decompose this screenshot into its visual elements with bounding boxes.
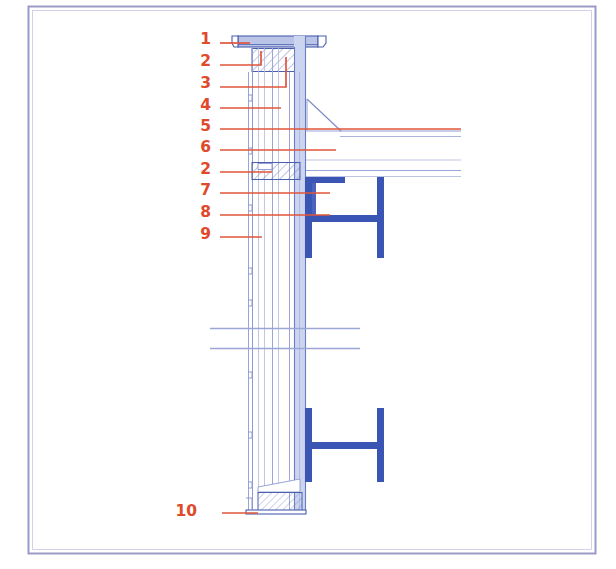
callout-number: 9 [200, 225, 211, 243]
beam-right-flange [377, 408, 384, 482]
callout-number: 2 [200, 160, 211, 178]
floor-slab-hatched [252, 163, 300, 180]
beam-stiffener [312, 183, 316, 215]
callout-number: 7 [200, 181, 211, 199]
callout-number: 10 [175, 502, 197, 520]
coping-drip-left [232, 36, 238, 47]
callout-number: 2 [200, 52, 211, 70]
callout-number: 5 [200, 117, 211, 135]
beam-left-flange [305, 408, 312, 482]
mullion-column [294, 36, 306, 512]
beam-left-flange [305, 177, 312, 258]
beam-right-flange [377, 177, 384, 258]
sill-hatched-block [258, 493, 302, 511]
coping-drip-right [318, 36, 326, 47]
parapet-coping-cap [232, 36, 326, 47]
detail-svg-canvas: 123456278910 [0, 0, 616, 569]
callout-number: 1 [200, 30, 211, 48]
callout-number: 3 [200, 74, 211, 92]
beam-web [312, 442, 377, 449]
beam-web [312, 215, 377, 222]
callout-number: 8 [200, 203, 211, 221]
callout-number: 4 [200, 96, 211, 114]
parapet-hatched-block [252, 49, 300, 72]
callout-number: 6 [200, 138, 211, 156]
architectural-detail-drawing: 123456278910 [0, 0, 616, 569]
